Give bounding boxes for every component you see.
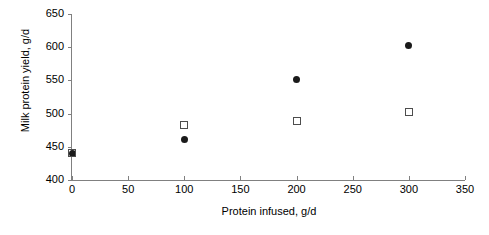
plot-area	[72, 14, 465, 180]
x-tick-label-150: 150	[220, 183, 260, 195]
data-point-open-square-series-0	[68, 149, 76, 157]
x-axis-line	[71, 180, 465, 181]
y-tick-label-650: 650	[28, 7, 64, 19]
data-point-filled-circle-series-100	[181, 136, 188, 143]
x-tick-label-350: 350	[445, 183, 485, 195]
x-tick-label-200: 200	[277, 183, 317, 195]
data-point-open-square-series-100	[180, 121, 188, 129]
data-point-open-square-series-300	[405, 108, 413, 116]
x-tick-350	[465, 176, 466, 180]
x-tick-label-250: 250	[333, 183, 373, 195]
y-tick-label-450: 450	[28, 140, 64, 152]
x-tick-label-300: 300	[389, 183, 429, 195]
y-tick-label-600: 600	[28, 40, 64, 52]
scatter-chart: Milk protein yield, g/d Protein infused,…	[0, 0, 489, 235]
x-tick-label-50: 50	[108, 183, 148, 195]
x-tick-label-0: 0	[52, 183, 92, 195]
data-point-open-square-series-200	[293, 117, 301, 125]
y-tick-label-550: 550	[28, 73, 64, 85]
y-tick-label-500: 500	[28, 107, 64, 119]
y-tick-400	[68, 180, 72, 181]
x-tick-label-100: 100	[164, 183, 204, 195]
x-axis-title: Protein infused, g/d	[72, 205, 466, 217]
y-axis-title: Milk protein yield, g/d	[16, 0, 34, 198]
